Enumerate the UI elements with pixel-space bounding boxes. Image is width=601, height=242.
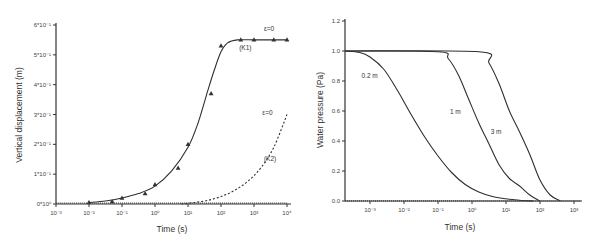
x-tick-label: 10¹ <box>502 207 511 213</box>
y-tick-label: 0.6 <box>332 108 341 114</box>
y-tick-label: 6*10⁻¹ <box>34 22 51 28</box>
x-tick-label: 10³ <box>250 210 259 216</box>
x-tick-label: 10¹ <box>184 210 193 216</box>
vertical-displacement-chart: 0*10⁰1*10⁻¹2*10⁻¹3*10⁻¹4*10⁻¹5*10⁻¹6*10⁻… <box>0 0 300 242</box>
series-k1-computed <box>89 40 287 203</box>
curve-annotation: (K2) <box>264 155 276 163</box>
plot-series <box>56 37 289 204</box>
triangle-marker <box>219 43 224 47</box>
x-tick-label: 10⁻³ <box>364 207 376 213</box>
y-tick-label: 0.0 <box>332 198 341 204</box>
y-tick-label: 0.8 <box>332 78 341 84</box>
y-tick-label: 3*10⁻¹ <box>34 112 51 118</box>
x-tick-label: 10⁰ <box>468 207 478 213</box>
water-pressure-chart: 0.00.20.40.60.81.01.2 10⁻³10⁻²10⁻¹10⁰10¹… <box>300 0 601 242</box>
x-axis-label: Time (s) <box>445 222 476 232</box>
curve-annotation: 3 m <box>491 128 502 135</box>
x-axis-label: Time (s) <box>157 224 188 234</box>
y-axis-label: Vertical displacement (m) <box>14 67 24 163</box>
curve-annotation: (K1) <box>239 44 251 52</box>
x-tick-label: 10³ <box>570 207 579 213</box>
y-tick-label: 0.4 <box>332 138 341 144</box>
plot-series <box>345 51 581 201</box>
y-tick-label: 1.2 <box>332 18 341 24</box>
plot-annotations: ε=0(K1)ε=0(K2) <box>239 25 276 163</box>
y-tick-label: 1.0 <box>332 48 341 54</box>
vertical-displacement-plot: 0*10⁰1*10⁻¹2*10⁻¹3*10⁻¹4*10⁻¹5*10⁻¹6*10⁻… <box>0 0 300 242</box>
y-tick-label: 5*10⁻¹ <box>34 52 51 58</box>
y-tick-label: 4*10⁻¹ <box>34 82 51 88</box>
y-tick-label: 0*10⁰ <box>37 201 52 207</box>
series-k1-measured <box>87 37 290 204</box>
x-tick-label: 10⁻² <box>398 207 410 213</box>
x-tick-label: 10⁴ <box>282 210 292 216</box>
y-tick-label: 1*10⁻¹ <box>34 171 51 177</box>
y-axis-label: Water pressure (Pa) <box>315 72 325 148</box>
x-axis: 10⁻³10⁻²10⁻¹10⁰10¹10²10³ <box>345 201 582 213</box>
x-tick-label: 10⁰ <box>151 210 161 216</box>
plot-annotations: 0.2 m1 m3 m <box>362 72 502 135</box>
curve-annotation: 1 m <box>450 108 461 115</box>
x-axis: 10⁻³10⁻²10⁻¹10⁰10¹10²10³10⁴ <box>50 204 292 216</box>
curve-annotation: ε=0 <box>262 109 273 116</box>
triangle-marker <box>176 166 181 170</box>
triangle-marker <box>209 91 214 95</box>
x-tick-label: 10² <box>217 210 226 216</box>
x-tick-label: 10⁻³ <box>50 210 62 216</box>
y-axis: 0.00.20.40.60.81.01.2 <box>332 18 345 204</box>
x-tick-label: 10⁻¹ <box>116 210 128 216</box>
y-axis: 0*10⁰1*10⁻¹2*10⁻¹3*10⁻¹4*10⁻¹5*10⁻¹6*10⁻… <box>34 22 56 207</box>
x-tick-label: 10⁻¹ <box>432 207 444 213</box>
x-tick-label: 10² <box>536 207 545 213</box>
water-pressure-plot: 0.00.20.40.60.81.01.2 10⁻³10⁻²10⁻¹10⁰10¹… <box>300 0 601 242</box>
y-tick-label: 2*10⁻¹ <box>34 141 51 147</box>
curve-annotation: ε=0 <box>264 25 275 32</box>
x-tick-label: 10⁻² <box>83 210 95 216</box>
triangle-marker <box>153 182 158 186</box>
y-tick-label: 0.2 <box>332 168 341 174</box>
curve-annotation: 0.2 m <box>362 72 378 79</box>
